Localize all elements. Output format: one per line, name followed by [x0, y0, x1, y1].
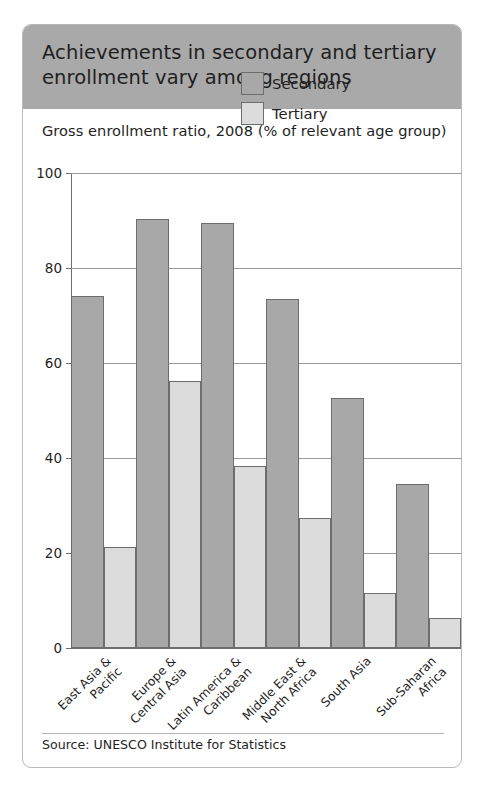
bar-tertiary: [429, 618, 462, 648]
y-axis-tick: [66, 268, 71, 269]
y-axis-tick-label: 100: [36, 165, 62, 181]
gridline: [71, 268, 461, 269]
legend-label-secondary: Secondary: [272, 75, 350, 92]
chart-area: 020406080100 Secondary Tertiary East Asi…: [23, 25, 462, 768]
bar-tertiary: [169, 381, 202, 648]
legend-swatch-tertiary-icon: [241, 102, 264, 125]
bar-tertiary: [299, 518, 332, 648]
bar-secondary: [331, 398, 364, 648]
chart-page: Achievements in secondary and tertiary e…: [0, 0, 484, 791]
x-axis-line: [71, 648, 461, 649]
x-axis-label: South Asia: [318, 654, 374, 710]
bar-secondary: [396, 484, 429, 648]
legend-label-tertiary: Tertiary: [272, 105, 328, 122]
y-axis-tick-label: 20: [45, 545, 62, 561]
y-axis-tick-label: 0: [53, 640, 62, 656]
bar-secondary: [71, 296, 104, 648]
plot-area: 020406080100: [71, 173, 461, 648]
x-axis-label: East Asia &Pacific: [55, 654, 124, 723]
x-axis-label-line: South Asia: [318, 654, 374, 710]
bar-secondary: [136, 219, 169, 648]
legend-swatch-secondary-icon: [241, 72, 264, 95]
source-note: Source: UNESCO Institute for Statistics: [42, 737, 286, 752]
chart-card: Achievements in secondary and tertiary e…: [22, 24, 462, 768]
bar-tertiary: [364, 593, 397, 648]
y-axis-tick: [66, 173, 71, 174]
bar-tertiary: [104, 547, 137, 648]
legend-item-tertiary: Tertiary: [241, 98, 350, 128]
bar-secondary: [201, 223, 234, 648]
y-axis-tick-label: 80: [45, 260, 62, 276]
y-axis-tick-label: 60: [45, 355, 62, 371]
gridline: [71, 173, 461, 174]
y-axis-tick: [66, 648, 71, 649]
x-axis-label: Middle East &North Africa: [239, 654, 319, 734]
bar-secondary: [266, 299, 299, 648]
y-axis-tick-label: 40: [45, 450, 62, 466]
chart-legend: Secondary Tertiary: [241, 68, 350, 128]
x-axis-labels: East Asia &PacificEurope &Central AsiaLa…: [71, 650, 461, 750]
source-divider: [42, 733, 444, 734]
x-axis-label: Sub-SaharanAfrica: [373, 654, 449, 730]
legend-item-secondary: Secondary: [241, 68, 350, 98]
bar-tertiary: [234, 466, 267, 648]
